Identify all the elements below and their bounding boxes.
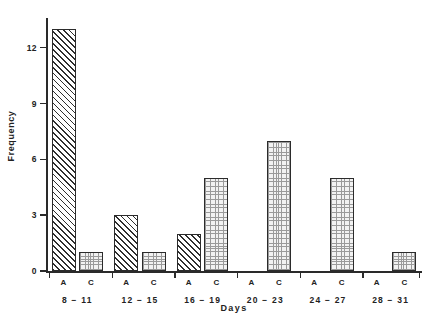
y-tick-label: 3 [32, 210, 37, 220]
bar-c-2 [204, 178, 228, 271]
bar-sublabel-a-0: A [60, 278, 66, 287]
y-axis-title: Frequency [0, 0, 22, 272]
y-tick: 6 [40, 159, 46, 160]
x-group-tick [112, 272, 113, 278]
x-group-tick [362, 272, 363, 278]
bar-c-1 [142, 252, 166, 271]
bar-a-0 [52, 29, 76, 271]
y-tick-label: 9 [32, 99, 37, 109]
y-tick: 3 [40, 214, 46, 215]
bar-sublabel-c-0: C [88, 278, 94, 287]
y-tick: 12 [40, 47, 46, 48]
x-group-tick [419, 272, 420, 278]
y-axis-line [46, 18, 48, 272]
bar-sublabel-a-4: A [311, 278, 317, 287]
bar-sublabel-c-1: C [151, 278, 157, 287]
x-group-tick [237, 272, 238, 278]
y-tick: 9 [40, 103, 46, 104]
bar-a-2 [177, 234, 201, 271]
x-axis-title: Days [46, 303, 422, 313]
x-axis-line [46, 271, 422, 273]
bar-a-1 [114, 215, 138, 271]
bar-sublabel-c-2: C [213, 278, 219, 287]
bar-sublabel-a-3: A [248, 278, 254, 287]
bar-sublabel-a-1: A [123, 278, 129, 287]
bar-sublabel-c-5: C [401, 278, 407, 287]
bar-sublabel-a-2: A [186, 278, 192, 287]
bar-chart: Frequency 036912 ACACACACACAC 8 − 1112 −… [0, 0, 442, 325]
y-axis-title-text: Frequency [6, 111, 16, 162]
x-group-tick [300, 272, 301, 278]
bar-c-0 [79, 252, 103, 271]
bar-c-4 [330, 178, 354, 271]
bar-sublabel-c-3: C [276, 278, 282, 287]
x-group-tick [49, 272, 50, 278]
bar-c-3 [267, 141, 291, 271]
plot-area: 036912 ACACACACACAC 8 − 1112 − 1516 − 19… [46, 18, 422, 272]
y-tick-label: 0 [32, 266, 37, 276]
y-tick: 0 [40, 270, 46, 271]
x-group-tick [174, 272, 175, 278]
y-tick-label: 12 [27, 43, 37, 53]
bar-sublabel-c-4: C [339, 278, 345, 287]
bar-c-5 [392, 252, 416, 271]
bar-sublabel-a-5: A [374, 278, 380, 287]
y-tick-label: 6 [32, 154, 37, 164]
